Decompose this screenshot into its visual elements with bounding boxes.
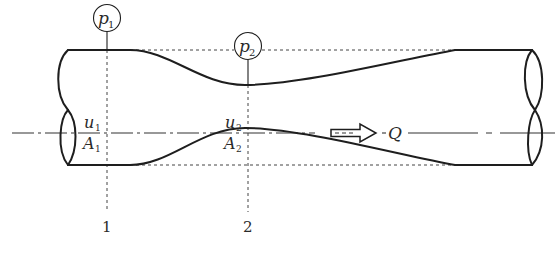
svg-text:A: A	[81, 134, 95, 153]
station-1-number: 1	[102, 218, 112, 236]
pressure-taps	[107, 32, 248, 85]
pipe-outline	[58, 50, 542, 165]
svg-text:1: 1	[108, 19, 114, 30]
svg-text:2: 2	[249, 47, 255, 58]
svg-text:A: A	[222, 134, 236, 153]
svg-text:u: u	[225, 113, 235, 132]
svg-text:2: 2	[236, 123, 242, 133]
svg-text:1: 1	[95, 123, 101, 133]
reference-lines	[130, 50, 458, 165]
svg-text:u: u	[84, 113, 94, 132]
svg-text:1: 1	[95, 144, 101, 154]
pressure-gauge-1: p 1	[94, 5, 121, 32]
svg-text:2: 2	[236, 144, 242, 154]
pressure-gauge-2: p 2	[235, 33, 262, 60]
flow-label: Q	[388, 123, 402, 143]
station-2-number: 2	[243, 218, 253, 236]
venturi-diagram: p 1 p 2 u 1 A 1 u 2 A 2 Q 1 2	[0, 0, 555, 256]
